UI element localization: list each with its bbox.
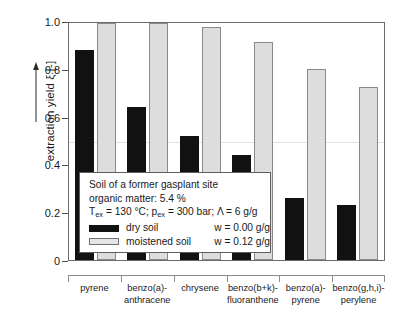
legend-conditions-end: = 300 bar; Λ = 6 g/g [165,206,257,217]
category-label: pyrene [68,283,121,313]
y-tick-label: 0.6 [30,113,60,124]
legend-value-dry-soil-w: w = 0.00 g/g [204,221,270,235]
bar-moistened-soil [307,69,326,260]
category-tick-mark [332,275,333,282]
category-tick-mark [174,275,175,282]
category-label-line: chrysene [174,283,227,295]
category-label-line: perylene [332,295,385,307]
category-tick-mark [279,275,280,282]
bar-group [332,23,385,260]
category-tick-mark [121,275,122,282]
legend-box: Soil of a former gasplant site organic m… [79,172,271,253]
legend-conditions-mid: = 130 °C; p [103,206,157,217]
category-axis-labels: pyrenebenzo(a)-anthracenechrysenebenzo(b… [68,283,385,313]
legend-line-organic-matter: organic matter: 5.4 % [89,192,270,206]
category-label-line: pyrene [279,295,332,307]
legend-t-subscript: ex [95,210,103,219]
category-label-line: benzo(b+k)- [226,283,279,295]
category-label-line: pyrene [68,283,121,295]
category-label: chrysene [174,283,227,313]
y-tick-label: 1.0 [30,17,60,28]
legend-swatch-moistened-soil [89,238,119,245]
legend-label-moistened-soil: moistened soil [126,235,204,249]
y-tick-label: 0.2 [30,208,60,219]
bar-dry-soil [337,205,356,260]
legend-line-soil: Soil of a former gasplant site [89,178,270,192]
category-label-line: anthracene [121,295,174,307]
y-axis-ticks: 1.0 0.8 0.6 0.4 0.2 0 [28,0,60,314]
bar-dry-soil [285,198,304,260]
category-label-line: fluoranthene [226,295,279,307]
category-label-line: benzo(a)- [279,283,332,295]
legend-swatch-dry-soil [89,225,119,232]
legend-p-subscript: ex [157,210,165,219]
category-label: benzo(a)-anthracene [121,283,174,313]
category-axis [68,275,385,282]
bar-moistened-soil [359,87,378,260]
legend-label-dry-soil: dry soil [126,221,204,235]
category-label-line: benzo(a)- [121,283,174,295]
category-tick-mark [227,275,228,282]
legend-line-conditions: Tex = 130 °C; pex = 300 bar; Λ = 6 g/g [89,205,270,221]
y-tick-mark [62,261,68,262]
category-label: benzo(g,h,i)-perylene [332,283,385,313]
category-label: benzo(a)-pyrene [279,283,332,313]
y-tick-label: 0.4 [30,160,60,171]
category-tick-mark [68,275,69,282]
category-label: benzo(b+k)-fluoranthene [226,283,279,313]
legend-entry-moistened-soil: moistened soil w = 0.12 g/g [89,235,270,249]
legend-entry-dry-soil: dry soil w = 0.00 g/g [89,221,270,235]
chart-figure: extraction yield ξ [-] 1.0 0.8 0.6 0.4 0… [0,0,399,314]
y-tick-label: 0 [30,256,60,267]
category-tick-mark [384,275,385,282]
category-label-line: benzo(g,h,i)- [332,283,385,295]
y-tick-label: 0.8 [30,65,60,76]
legend-value-moistened-soil-w: w = 0.12 g/g [204,235,270,249]
bar-group [279,23,332,260]
